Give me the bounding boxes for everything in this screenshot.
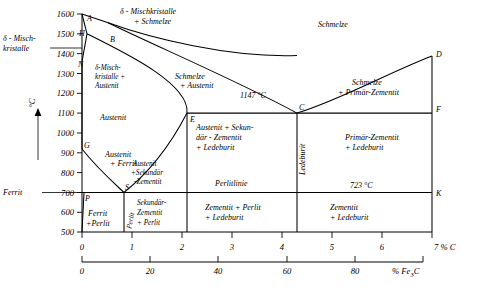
fe-fe3c-diagram-svg: 1600 1500 1400 1300 1200 1100 1000 900 8…	[0, 0, 487, 287]
y-axis-unit-label: °C	[27, 98, 37, 107]
label-delta-mk-outside-line2: kristalle	[3, 44, 30, 53]
point-label-D: D	[435, 50, 442, 59]
x2-tick-80: 80	[351, 266, 360, 276]
point-label-E: E	[189, 115, 195, 124]
y-axis-arrow-icon	[35, 108, 42, 116]
x-axis-secondary-unit: % Fe3C	[392, 266, 420, 278]
y-tick-1100: 1100	[57, 108, 74, 118]
label-schmelze-austenit-line2: + Austenit	[180, 81, 214, 90]
label-aus-sek-zem-line3: -Zementit	[134, 178, 163, 186]
label-sek-zem-perlit-line2: Zementit	[137, 209, 163, 217]
x2-tick-60: 60	[283, 266, 292, 276]
x2-tick-0: 0	[80, 266, 85, 276]
label-delta-mk-schmelze-line2: + Schmelze	[134, 17, 172, 26]
x-axis-primary-unit: 7 % C	[434, 242, 456, 252]
x-tick-6: 6	[380, 242, 385, 252]
point-label-G: G	[84, 141, 90, 150]
label-zem-led-line2: + Ledeburit	[330, 213, 369, 222]
x2-tick-40: 40	[214, 266, 223, 276]
label-delta-mk-outside-line1: δ - Misch-	[3, 34, 36, 43]
x-axis-secondary: 0 20 40 60 80 % Fe3C	[80, 256, 423, 278]
label-aus-sek-zem-led-line1: Austenit + Sekun-	[195, 123, 254, 132]
label-perlitlinie: Perlitlinie	[214, 179, 248, 188]
x-tick-3: 3	[229, 242, 234, 252]
x2-unit-main: % Fe	[392, 266, 411, 276]
liquidus-AB	[82, 14, 108, 23]
label-schmelze-austenit-line1: Schmelze	[175, 72, 205, 81]
liquidus-BC	[108, 23, 298, 114]
label-ferrit-perlit-line1: Ferrit	[87, 209, 108, 218]
label-prim-zem-led-line1: Primär-Zementit	[344, 133, 399, 142]
label-aus-sek-zem-line2: +Sekundär	[131, 169, 163, 177]
point-label-C: C	[299, 103, 305, 112]
x2-unit-tail: C	[414, 266, 420, 276]
label-delta-mk-schmelze-line1: δ - Mischkristalle	[120, 7, 177, 16]
x2-tick-20: 20	[146, 266, 155, 276]
phase-diagram-figure: 1600 1500 1400 1300 1200 1100 1000 900 8…	[0, 0, 487, 287]
label-schmelze: Schmelze	[318, 20, 348, 29]
label-delta-mk-austenit-line3: Austenit	[94, 82, 120, 90]
y-tick-1500: 1500	[57, 29, 75, 39]
label-sek-zem-perlit-line1: Sekundär-	[137, 199, 167, 207]
label-aus-sek-zem-line1: Austenit	[132, 160, 158, 168]
y-tick-600: 600	[61, 207, 75, 217]
y-tick-1000: 1000	[57, 128, 75, 138]
point-label-H: H	[78, 29, 86, 38]
point-label-K: K	[435, 189, 442, 198]
axes-group	[82, 14, 432, 232]
point-label-P: P	[84, 194, 90, 203]
point-label-B: B	[110, 35, 115, 44]
y-tick-900: 900	[61, 148, 75, 158]
label-austenit: Austenit	[99, 113, 127, 122]
label-zem-led-line1: Zementit	[330, 203, 359, 212]
label-ledeburit: Ledeburit	[298, 143, 307, 176]
point-label-N: N	[77, 60, 84, 69]
y-ticks: 1600 1500 1400 1300 1200 1100 1000 900 8…	[57, 9, 82, 237]
label-temp-1147: 1147 °C	[240, 91, 267, 100]
x-tick-0: 0	[80, 242, 85, 252]
label-delta-mk-austenit-line1: δ-Misch-	[95, 64, 121, 72]
label-delta-mk-austenit-line2: kristalle +	[95, 73, 125, 81]
y-tick-1300: 1300	[57, 69, 75, 79]
x-tick-1: 1	[130, 242, 134, 252]
x-tick-4: 4	[280, 242, 285, 252]
label-austenit-ferrit-line1: Austenit	[104, 150, 132, 159]
label-ferrit-perlit-line2: +Perlit	[86, 219, 110, 228]
label-perlit: Perlit	[125, 211, 137, 231]
label-schmelze-prim-zem-line1: Schmelze	[352, 78, 382, 87]
y-tick-1400: 1400	[57, 49, 75, 59]
y-tick-1200: 1200	[57, 88, 75, 98]
label-zem-perlit-led-line1: Zementit + Perlit	[205, 203, 261, 212]
point-label-A: A	[86, 14, 92, 23]
label-ferrit-axis: Ferrit	[2, 188, 23, 197]
liquidus-BC-upper	[108, 23, 298, 56]
y-tick-800: 800	[61, 168, 75, 178]
y-axis-title-group: °C	[27, 98, 41, 160]
point-label-F: F	[435, 105, 441, 114]
y-tick-500: 500	[61, 227, 75, 237]
label-aus-sek-zem-led-line3: + Ledeburit	[196, 143, 235, 152]
y-tick-1600: 1600	[57, 9, 75, 19]
point-label-S: S	[125, 183, 129, 192]
label-prim-zem-led-line2: + Ledeburit	[345, 143, 384, 152]
x-axis-primary: 0 1 2 3 4 5 6 7 % C	[80, 232, 456, 252]
label-schmelze-prim-zem-line2: + Primär-Zementit	[338, 88, 400, 97]
label-zem-perlit-led-line2: + Ledeburit	[205, 213, 244, 222]
phase-boundaries	[82, 14, 432, 232]
label-temp-723: 723 °C	[350, 181, 373, 190]
x-tick-5: 5	[330, 242, 335, 252]
label-sek-zem-perlit-line3: + Perlit	[137, 219, 161, 227]
x-tick-2: 2	[180, 242, 185, 252]
label-aus-sek-zem-led-line2: där - Zementit	[196, 133, 243, 142]
